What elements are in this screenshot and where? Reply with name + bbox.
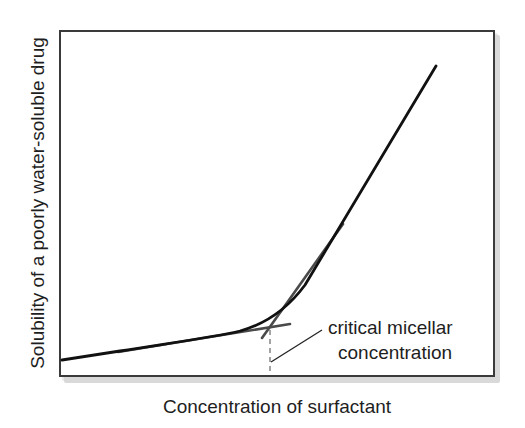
x-axis-label: Concentration of surfactant [163, 396, 392, 417]
y-axis-label: Solubility of a poorly water-soluble dru… [27, 37, 48, 369]
solubility-chart: critical micellar concentration Concentr… [0, 0, 525, 428]
annotation-line-2: concentration [338, 342, 452, 363]
annotation-line-1: critical micellar [328, 317, 453, 338]
